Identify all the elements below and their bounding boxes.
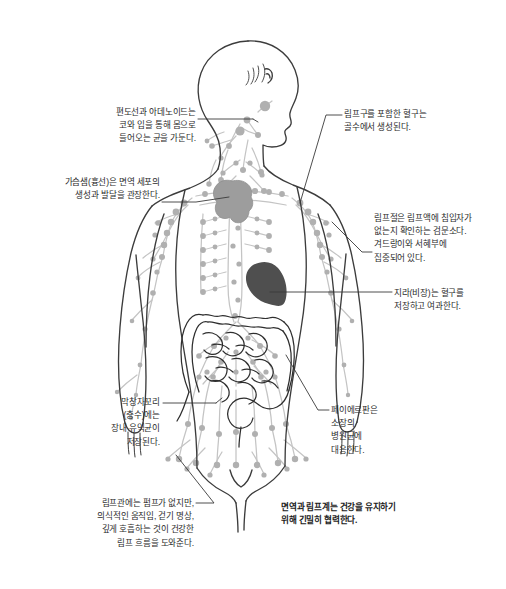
lymph-nodes-group (115, 101, 355, 478)
lymphatic-system-figure (0, 0, 506, 589)
leader-tonsils-tail (253, 119, 258, 122)
diagram-canvas: 편도선과 아데노이드는 코와 입을 통해 몸으로 들어오는 균을 가둔다. 가슴… (0, 0, 506, 589)
leader-appendix-tail (216, 398, 222, 403)
lymph-vessel-network (117, 101, 352, 474)
thymus-organ (213, 180, 252, 223)
leader-lymph-node (332, 222, 372, 252)
spleen-organ (246, 262, 287, 306)
